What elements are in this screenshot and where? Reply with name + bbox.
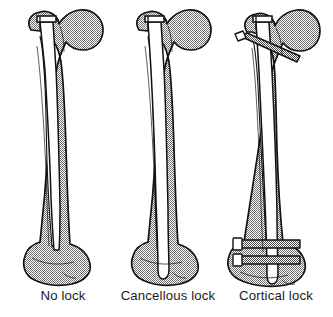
- panel-label-no-lock: No lock: [40, 288, 85, 303]
- panel-label-cortical-lock: Cortical lock: [239, 288, 313, 303]
- distal-screw-head-lower: [233, 254, 242, 266]
- illustration-canvas: No lock Cancellous lock: [0, 0, 333, 317]
- panel-label-cancellous-lock: Cancellous lock: [121, 288, 216, 303]
- distal-screw-head-upper: [233, 238, 242, 250]
- distal-locking-screw-lower: [240, 256, 300, 264]
- femur-fixation-figure: No lock Cancellous lock: [0, 0, 333, 317]
- distal-locking-screw-upper: [240, 240, 300, 248]
